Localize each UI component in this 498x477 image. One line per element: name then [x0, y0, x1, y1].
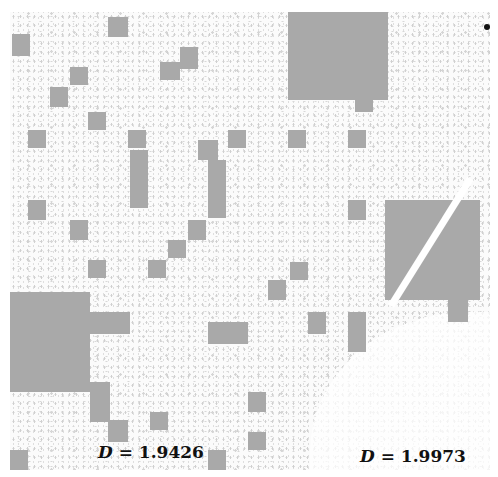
cluster-block	[288, 12, 388, 100]
cluster-block	[208, 322, 248, 344]
cluster-block	[348, 130, 366, 148]
cluster-block	[50, 87, 68, 107]
cluster-block	[348, 312, 366, 352]
dimension-label-right: D = 1.9973	[360, 446, 466, 466]
cluster-block	[90, 312, 130, 334]
cluster-block	[10, 292, 90, 392]
cluster-block	[248, 392, 266, 412]
cluster-block	[28, 130, 46, 148]
label-equals: =	[119, 442, 133, 462]
cluster-block	[308, 312, 326, 334]
label-value: 1.9426	[139, 442, 204, 462]
cluster-block	[70, 220, 88, 240]
cluster-block	[448, 300, 468, 322]
cluster-block	[290, 262, 308, 280]
label-equals: =	[381, 446, 395, 466]
cluster-block	[12, 34, 30, 56]
cluster-block	[248, 432, 266, 450]
figure-caption-top	[0, 0, 498, 8]
cluster-block	[355, 100, 373, 112]
cluster-block	[348, 200, 366, 220]
cluster-block	[160, 62, 180, 80]
cluster-block	[150, 412, 168, 430]
cluster-block	[198, 140, 218, 160]
fractal-pattern-figure: D = 1.9426 D = 1.9973	[10, 12, 490, 470]
cluster-block	[130, 150, 148, 208]
cluster-block	[268, 280, 286, 300]
cluster-block	[188, 220, 206, 240]
cluster-block	[88, 112, 106, 130]
cluster-block	[288, 130, 306, 148]
cluster-block	[168, 240, 186, 258]
label-value: 1.9973	[401, 446, 466, 466]
dimension-label-left: D = 1.9426	[98, 442, 204, 462]
cluster-block	[108, 17, 128, 37]
cluster-block	[128, 130, 146, 148]
cluster-block	[28, 200, 46, 220]
label-symbol: D	[360, 446, 375, 466]
cluster-block	[10, 450, 28, 470]
cluster-block	[70, 67, 88, 85]
cluster-block	[180, 47, 198, 69]
cluster-block	[90, 382, 110, 422]
cluster-block	[108, 420, 128, 442]
label-symbol: D	[98, 442, 113, 462]
cluster-block	[148, 260, 166, 278]
cluster-block	[208, 450, 226, 470]
cluster-block	[208, 160, 226, 218]
cluster-block	[228, 130, 246, 148]
cluster-block	[88, 260, 106, 278]
black-dot-marker	[484, 24, 490, 30]
